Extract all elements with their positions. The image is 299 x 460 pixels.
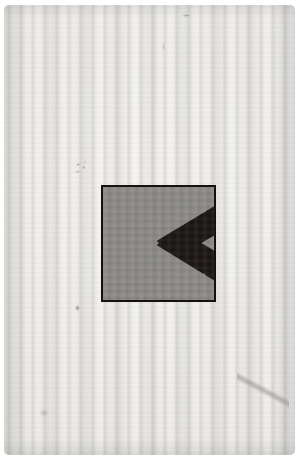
figure-frame	[101, 185, 216, 302]
chevron-graphic	[103, 187, 214, 300]
scanned-image	[0, 0, 299, 460]
paper-card	[4, 5, 295, 455]
chevron-figure	[101, 185, 216, 302]
